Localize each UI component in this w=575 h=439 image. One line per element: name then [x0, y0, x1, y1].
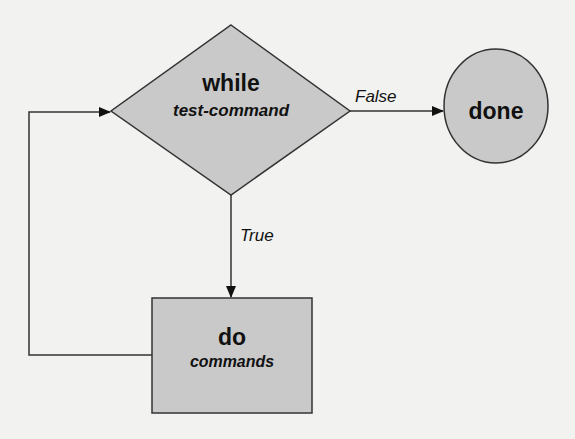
false-edge: False: [350, 87, 443, 111]
process-keyword: do: [218, 324, 246, 350]
loop-back-edge: [29, 112, 152, 355]
false-label: False: [355, 87, 397, 106]
while-decision-node: while test-command: [111, 25, 350, 195]
process-commands: commands: [190, 352, 274, 371]
decision-keyword: while: [201, 70, 260, 96]
do-process-node: do commands: [152, 298, 312, 413]
while-loop-flowchart: while test-command False done True do co…: [0, 0, 575, 439]
done-terminal-node: done: [444, 49, 548, 163]
terminal-label: done: [469, 98, 524, 124]
decision-condition: test-command: [173, 101, 290, 120]
true-label: True: [240, 226, 274, 245]
true-edge: True: [231, 195, 274, 297]
